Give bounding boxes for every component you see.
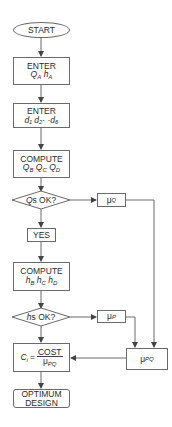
enter-d-vars: d₁ d₂· ·d₆ xyxy=(25,116,59,125)
mu-q-node: μQ xyxy=(97,193,126,207)
compute-q-vars: QB QC QD xyxy=(23,163,60,173)
enter-d-node: ENTER d₁ d₂· ·d₆ xyxy=(13,103,70,128)
compute-q-node: COMPUTE QB QC QD xyxy=(13,150,70,178)
decision-h-label: hs OK? xyxy=(12,312,70,322)
cost-numerator: COST xyxy=(37,348,63,358)
cost-eq: = xyxy=(30,353,35,362)
optimum-design-node: OPTIMUM DESIGN xyxy=(13,389,70,408)
start-label: START xyxy=(28,26,55,35)
decision-q-label: Qs OK? xyxy=(12,195,70,205)
compute-h-vars: hB hC hD xyxy=(26,276,58,286)
mu-pq-node: μPQ xyxy=(126,348,168,370)
enter-q-node: ENTER QA hA xyxy=(13,57,70,85)
enter-q-vars: QA hA xyxy=(31,70,53,80)
optimum-line2: DESIGN xyxy=(25,399,58,408)
yes-node: YES xyxy=(27,228,56,242)
compute-h-node: COMPUTE hB hC hD xyxy=(13,262,70,291)
yes-label: YES xyxy=(33,231,50,240)
start-node: START xyxy=(13,22,70,38)
cost-fraction: COST μPQ xyxy=(37,348,63,368)
cost-node: Ci = COST μPQ xyxy=(13,343,70,372)
mu-p-node: μP xyxy=(97,310,126,323)
cost-denominator: μPQ xyxy=(43,357,57,367)
cost-lhs: Ci xyxy=(20,353,27,363)
